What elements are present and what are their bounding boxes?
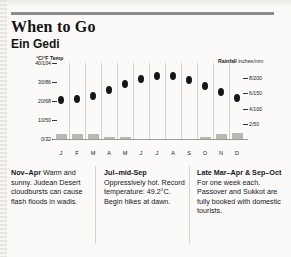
note-block-0: Nov–Apr Warm and sunny. Judean Desert cl… <box>11 168 96 216</box>
rain-tick-8: 8/200 <box>249 75 279 81</box>
month-label-A-3: A <box>102 150 116 156</box>
temp-tick-30: 30/86 <box>25 79 51 85</box>
note-heading-0: Nov–Apr <box>11 168 41 177</box>
rain-tick-6: 6/150 <box>249 90 279 96</box>
month-label-N-10: N <box>214 150 228 156</box>
page-title: When to Go <box>11 18 96 36</box>
temp-tick-10: 10/50 <box>25 117 51 123</box>
gridline <box>229 63 230 139</box>
gridline <box>165 63 166 139</box>
month-label-J-6: J <box>150 150 164 156</box>
note-heading-1: Jul–mid-Sep <box>104 168 147 177</box>
month-label-S-8: S <box>182 150 196 156</box>
month-label-A-7: A <box>166 150 180 156</box>
month-label-M-2: M <box>86 150 100 156</box>
scan-gutter-left <box>0 0 7 257</box>
temp-dot-S-8 <box>186 76 192 84</box>
gridline <box>197 63 198 139</box>
temp-dot-M-2 <box>90 92 96 100</box>
temp-tick-0: 0/32 <box>25 136 51 142</box>
temp-dot-A-7 <box>170 72 176 80</box>
month-label-J-0: J <box>54 150 68 156</box>
temp-dot-D-11 <box>234 94 240 102</box>
gridline <box>133 63 134 139</box>
seasonal-notes: Nov–Apr Warm and sunny. Judean Desert cl… <box>11 168 283 216</box>
month-label-O-9: O <box>198 150 212 156</box>
temp-dot-J-5 <box>138 75 144 83</box>
plot-area: JFMAMJJASOND <box>53 63 245 139</box>
gridline <box>101 63 102 139</box>
gridline <box>85 63 86 139</box>
page-subtitle: Ein Gedi <box>11 37 60 51</box>
temp-dot-F-1 <box>74 95 80 103</box>
gridline <box>149 63 150 139</box>
rain-tick-4: 4/100 <box>249 106 279 112</box>
temp-dot-J-0 <box>58 96 64 104</box>
temp-dot-M-4 <box>122 80 128 88</box>
climate-chart: °C/°F Temp Rainfall inches/mm 40/10430/8… <box>11 55 283 155</box>
rain-tick-2: 2/50 <box>249 121 279 127</box>
note-block-1: Jul–mid-Sep Oppressively hot. Record tem… <box>104 168 189 216</box>
month-label-M-4: M <box>118 150 132 156</box>
note-body-2: For one week each. Passover and Sukkot a… <box>197 178 281 216</box>
temp-tick-20: 20/68 <box>25 98 51 104</box>
gridline <box>69 63 70 139</box>
gridline <box>213 63 214 139</box>
month-label-F-1: F <box>70 150 84 156</box>
month-label-D-11: D <box>230 150 244 156</box>
scan-edge-top <box>0 0 291 9</box>
axis-baseline <box>53 139 248 140</box>
title-rule <box>11 12 274 15</box>
page-background: When to Go Ein Gedi °C/°F Temp Rainfall … <box>0 0 291 257</box>
gridline <box>117 63 118 139</box>
gridline <box>181 63 182 139</box>
temp-tick-40: 40/104 <box>25 60 51 66</box>
month-label-J-5: J <box>134 150 148 156</box>
temp-dot-O-9 <box>202 82 208 90</box>
temp-dot-J-6 <box>154 72 160 80</box>
note-body-1: Oppressively hot. Record temperature: 49… <box>104 178 185 206</box>
note-block-2: Late Mar–Apr & Sep–Oct For one week each… <box>197 168 282 216</box>
note-heading-2: Late Mar–Apr & Sep–Oct <box>197 168 281 177</box>
temp-dot-A-3 <box>106 86 112 94</box>
temp-dot-N-10 <box>218 88 224 96</box>
